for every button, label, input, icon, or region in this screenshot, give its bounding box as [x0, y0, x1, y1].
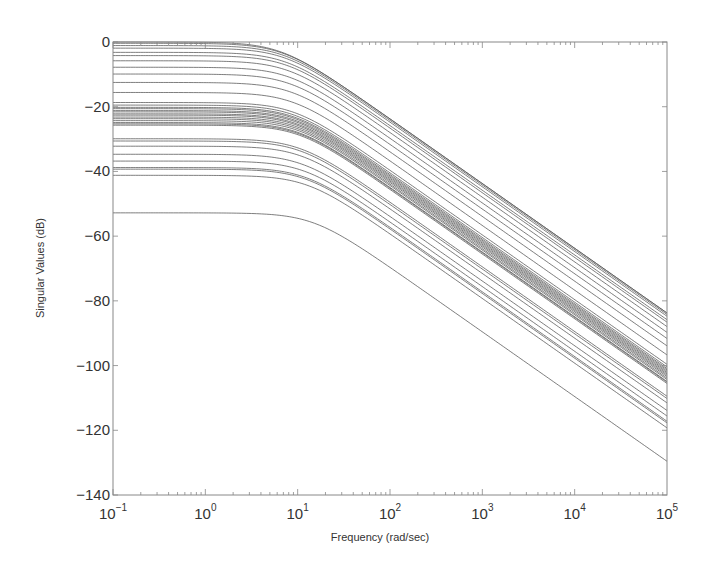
- curve-sv8: [113, 67, 667, 332]
- x-axis-label: Frequency (rad/sec): [331, 531, 429, 543]
- x-tick-label: 105: [656, 502, 679, 522]
- curve-sv6: [113, 56, 667, 323]
- x-tick-label: 103: [471, 502, 494, 522]
- curve-sv34: [113, 213, 667, 461]
- y-tick-label: −100: [76, 357, 110, 374]
- y-tick-label: −40: [85, 162, 110, 179]
- y-tick-label: −140: [76, 486, 110, 503]
- curve-sv31: [113, 168, 667, 422]
- y-axis-label: Singular Values (dB): [34, 218, 46, 318]
- y-tick-label: −20: [85, 98, 110, 115]
- x-tick-label: 10−1: [99, 502, 128, 522]
- curve-sv32: [113, 169, 667, 423]
- x-tick-label: 101: [287, 502, 310, 522]
- curve-sv16: [113, 111, 667, 372]
- curve-sv17: [113, 112, 667, 373]
- singular-value-curves: [113, 42, 667, 461]
- curve-sv21: [113, 119, 667, 378]
- curve-sv15: [113, 109, 667, 370]
- y-tick-label: −60: [85, 227, 110, 244]
- y-tick-label: −80: [85, 292, 110, 309]
- x-tick-label: 104: [564, 502, 587, 522]
- curve-sv30: [113, 161, 667, 416]
- singular-value-plot: 0−20−40−60−80−100−120−140 10−11001011021…: [0, 0, 717, 573]
- y-tick-label: −120: [76, 421, 110, 438]
- x-tick-label: 102: [379, 502, 402, 522]
- x-axis-tick-labels: 10−1100101102103104105: [99, 502, 679, 522]
- y-tick-label: 0: [102, 33, 110, 50]
- curve-sv18: [113, 114, 667, 374]
- curve-sv24: [113, 124, 667, 382]
- x-tick-label: 100: [194, 502, 217, 522]
- curve-sv7: [113, 61, 667, 327]
- y-axis-tick-labels: 0−20−40−60−80−100−120−140: [76, 33, 110, 503]
- curve-sv29: [113, 154, 667, 410]
